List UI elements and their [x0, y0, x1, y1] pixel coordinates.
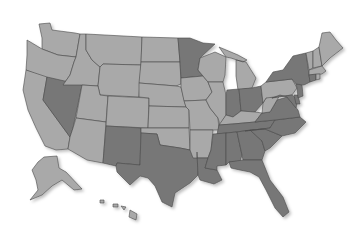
us-map — [0, 0, 363, 234]
state-az[interactable] — [68, 118, 106, 163]
state-ks[interactable] — [148, 106, 189, 128]
state-co[interactable] — [106, 96, 149, 128]
state-me[interactable] — [319, 32, 343, 66]
state-mt[interactable] — [86, 34, 142, 67]
state-ct[interactable] — [309, 74, 316, 82]
state-ak[interactable] — [30, 156, 82, 200]
state-sd[interactable] — [139, 62, 181, 86]
state-wy[interactable] — [98, 64, 141, 97]
state-nm[interactable] — [103, 126, 141, 166]
state-ri[interactable] — [316, 74, 320, 80]
state-oh[interactable] — [239, 86, 263, 112]
state-fl[interactable] — [229, 160, 289, 217]
state-hi[interactable] — [100, 200, 137, 220]
state-nd[interactable] — [141, 37, 180, 62]
